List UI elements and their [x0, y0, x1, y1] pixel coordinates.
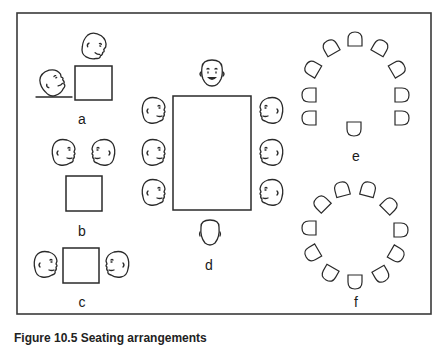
label-d: d [205, 257, 213, 273]
table-b [66, 176, 102, 211]
label-e: e [352, 148, 360, 164]
panel-c: c [34, 248, 129, 310]
person-d-right3-face-icon [260, 180, 283, 206]
person-c1-face-icon [34, 252, 57, 278]
person-d-left2-face-icon [142, 140, 165, 166]
seat-e6-icon [302, 88, 316, 102]
seat-e3-icon [371, 38, 390, 57]
person-b2-face-icon [92, 140, 115, 166]
person-d-right1-face-icon [260, 98, 283, 124]
panel-f: f [302, 180, 408, 310]
label-f: f [354, 294, 358, 310]
seat-f5-icon [302, 221, 316, 235]
seat-f4-icon [380, 195, 400, 215]
seat-e4-icon [303, 59, 322, 78]
seat-f3-icon [311, 193, 331, 213]
table-a [75, 66, 112, 100]
person-d-left3-face-icon [142, 180, 165, 206]
seat-f8-icon [387, 245, 406, 264]
panel-e: e [302, 32, 409, 164]
seat-e7-icon [395, 88, 409, 102]
seat-e1-icon [348, 32, 362, 46]
seat-e10-icon [347, 122, 361, 136]
seat-f1-icon [333, 180, 350, 197]
panel-a: a [36, 30, 112, 127]
seat-f7-icon [303, 244, 322, 263]
person-d-right2-face-icon [260, 140, 283, 166]
person-d-left1-face-icon [142, 98, 165, 124]
figure-caption: Figure 10.5 Seating arrangements [14, 331, 207, 345]
label-c: c [79, 294, 86, 310]
panel-d: d [142, 60, 283, 273]
person-b1-face-icon [52, 140, 75, 166]
person-a1-face-icon [79, 30, 109, 62]
person-d-head-face-icon [200, 60, 224, 86]
person-d-foot-head-icon [200, 220, 221, 245]
seat-f2-icon [360, 180, 377, 197]
table-c [63, 248, 99, 283]
label-b: b [78, 223, 86, 239]
person-c2-face-icon [106, 252, 129, 278]
seat-f6-icon [394, 223, 408, 237]
seat-f9-icon [320, 264, 339, 283]
seat-e5-icon [388, 59, 407, 78]
seat-e9-icon [395, 111, 409, 125]
label-a: a [78, 111, 86, 127]
panel-b: b [52, 140, 115, 240]
seat-e2-icon [321, 38, 340, 57]
table-d [173, 96, 251, 210]
seat-f10-icon [372, 265, 391, 284]
seat-f11-icon [348, 275, 362, 289]
person-a2-face-icon [36, 66, 69, 100]
seat-e8-icon [302, 111, 316, 125]
